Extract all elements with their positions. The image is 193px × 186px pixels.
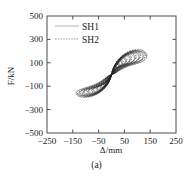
x-axis-title: Δ/mm xyxy=(100,145,122,155)
figure-panel: −250−150−5050150250 −500−300−10010030050… xyxy=(0,0,193,186)
legend-label-sh2: SH2 xyxy=(82,35,99,45)
y-tick-label: 300 xyxy=(30,34,44,44)
hysteresis-loop xyxy=(82,50,141,96)
hysteresis-chart: −250−150−5050150250 −500−300−10010030050… xyxy=(0,0,193,160)
y-axis-title: F/kN xyxy=(6,66,16,85)
y-axis-tick-labels: −500−300−100100300500 xyxy=(24,11,43,138)
y-tick-label: −100 xyxy=(24,81,43,91)
x-tick-label: 150 xyxy=(143,136,157,146)
hysteresis-loop xyxy=(78,51,145,96)
chart-legend: SH1 SH2 xyxy=(55,22,99,45)
x-tick-label: −150 xyxy=(64,136,83,146)
y-tick-label: −500 xyxy=(24,128,43,138)
y-tick-label: 500 xyxy=(30,11,44,21)
y-tick-label: −300 xyxy=(24,105,43,115)
series-sh2-loops xyxy=(77,49,145,97)
legend-label-sh1: SH1 xyxy=(82,22,99,32)
chart-plot-area: −250−150−5050150250 −500−300−10010030050… xyxy=(0,0,193,160)
y-tick-label: 100 xyxy=(30,58,44,68)
hysteresis-loop xyxy=(77,49,145,97)
x-tick-label: 250 xyxy=(169,136,183,146)
figure-caption: (a) xyxy=(0,160,193,170)
